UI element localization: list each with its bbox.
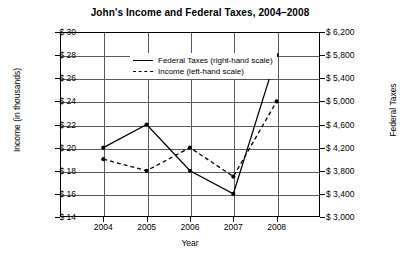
right-axis-tick-mark <box>320 32 325 33</box>
data-point <box>188 146 192 150</box>
x-axis-tick-mark <box>147 217 148 222</box>
data-point <box>101 146 105 150</box>
right-axis-tick-mark <box>320 148 325 149</box>
chart-legend: Federal Taxes (right-hand scale) Income … <box>130 53 277 79</box>
right-axis-tick-label: $ 4,200 <box>326 143 380 153</box>
data-point <box>231 174 235 178</box>
left-axis-tick-mark <box>55 217 60 218</box>
x-axis-title: Year <box>60 238 320 248</box>
data-point <box>188 169 192 173</box>
right-axis-tick-label: $ 3,000 <box>326 212 380 222</box>
left-axis-tick-mark <box>55 171 60 172</box>
right-axis-title: Federal Taxes <box>388 35 398 185</box>
left-axis-tick-label: $ 28 <box>28 50 76 60</box>
legend-item-income: Income (left-hand scale) <box>133 66 273 77</box>
right-axis-tick-mark <box>320 78 325 79</box>
legend-label-income: Income (left-hand scale) <box>158 66 244 77</box>
left-axis-tick-mark <box>55 32 60 33</box>
left-axis-title: Income (in thousands) <box>12 35 22 185</box>
data-point <box>145 169 149 173</box>
right-axis-tick-label: $ 4,600 <box>326 120 380 130</box>
data-point <box>101 157 105 161</box>
left-axis-tick-label: $ 16 <box>28 189 76 199</box>
right-axis-tick-mark <box>320 101 325 102</box>
data-point <box>145 122 149 126</box>
dashed-line-key-icon <box>133 67 153 76</box>
left-axis-tick-label: $ 22 <box>28 120 76 130</box>
right-axis-tick-label: $ 5,800 <box>326 50 380 60</box>
left-axis-tick-mark <box>55 125 60 126</box>
left-axis-tick-label: $ 14 <box>28 212 76 222</box>
x-axis-tick-mark <box>277 217 278 222</box>
left-axis-tick-mark <box>55 101 60 102</box>
x-axis-tick-label: 2007 <box>213 222 253 232</box>
right-axis-tick-mark <box>320 125 325 126</box>
left-axis-tick-mark <box>55 55 60 56</box>
x-axis-tick-label: 2006 <box>170 222 210 232</box>
data-point <box>275 99 279 103</box>
solid-line-key-icon <box>133 56 153 65</box>
x-axis-tick-mark <box>190 217 191 222</box>
right-axis-tick-mark <box>320 194 325 195</box>
income-taxes-chart: John's Income and Federal Taxes, 2004–20… <box>0 0 400 267</box>
right-axis-tick-mark <box>320 171 325 172</box>
left-axis-tick-label: $ 30 <box>28 27 76 37</box>
left-axis-tick-label: $ 18 <box>28 166 76 176</box>
chart-title: John's Income and Federal Taxes, 2004–20… <box>0 7 400 18</box>
left-axis-tick-label: $ 26 <box>28 73 76 83</box>
data-point <box>231 192 235 196</box>
right-axis-tick-label: $ 6,200 <box>326 27 380 37</box>
left-axis-tick-mark <box>55 148 60 149</box>
right-axis-tick-mark <box>320 217 325 218</box>
left-axis-tick-label: $ 20 <box>28 143 76 153</box>
x-axis-tick-label: 2008 <box>257 222 297 232</box>
right-axis-tick-label: $ 5,000 <box>326 96 380 106</box>
left-axis-tick-mark <box>55 78 60 79</box>
x-axis-tick-mark <box>103 217 104 222</box>
x-axis-tick-label: 2005 <box>127 222 167 232</box>
right-axis-tick-label: $ 3,400 <box>326 189 380 199</box>
legend-item-federal-taxes: Federal Taxes (right-hand scale) <box>133 55 273 66</box>
x-axis-tick-label: 2004 <box>83 222 123 232</box>
legend-label-federal-taxes: Federal Taxes (right-hand scale) <box>158 55 273 66</box>
right-axis-tick-mark <box>320 55 325 56</box>
right-axis-tick-label: $ 5,400 <box>326 73 380 83</box>
x-axis-tick-mark <box>233 217 234 222</box>
left-axis-tick-label: $ 24 <box>28 96 76 106</box>
right-axis-tick-label: $ 3,800 <box>326 166 380 176</box>
left-axis-tick-mark <box>55 194 60 195</box>
